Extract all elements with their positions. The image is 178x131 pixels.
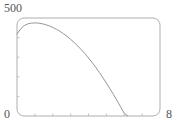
chart-screenshot: 500 0 8 (0, 0, 178, 131)
origin-tick-label: 0 (4, 108, 10, 120)
y-max-tick-label: 500 (4, 2, 22, 14)
x-max-tick-label: 8 (166, 108, 172, 120)
plot-canvas (0, 0, 178, 131)
data-series-group (17, 23, 128, 116)
plot-frame (17, 18, 160, 116)
curve-line (17, 23, 128, 116)
